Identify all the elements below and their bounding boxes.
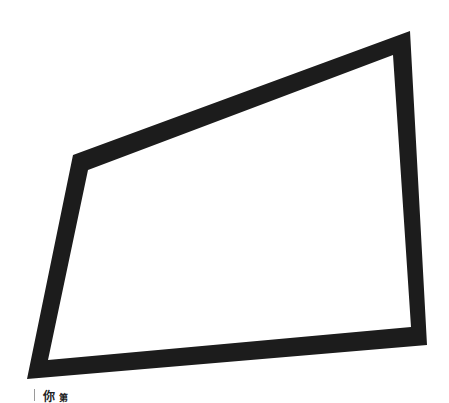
- caption-divider: [34, 389, 35, 401]
- caption: 你 第: [34, 388, 68, 402]
- quadrilateral-frame: [0, 0, 449, 403]
- frame-shape: [27, 31, 427, 379]
- caption-char-1: 你: [43, 387, 55, 403]
- caption-char-2: 第: [59, 391, 68, 403]
- caption-text: 你 第: [43, 387, 68, 403]
- image-canvas: 你 第: [0, 0, 449, 403]
